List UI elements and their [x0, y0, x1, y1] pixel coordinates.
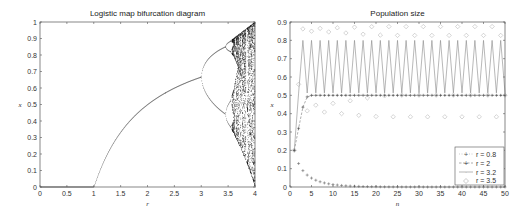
bifurcation-chart: Logistic map bifurcation diagram 00.511.… [17, 9, 257, 208]
x-tick-label: 3.5 [223, 190, 233, 197]
legend-item-r-3-2: · r = 3.2 [459, 169, 496, 176]
x-tick-label: 30 [415, 190, 423, 197]
bifurcation-y-ticks: 00.10.20.30.40.50.60.70.80.91 [27, 19, 255, 191]
y-tick-label: 0.5 [277, 92, 287, 99]
population-x-label: n [396, 200, 400, 208]
legend-label: r = 2 [476, 160, 490, 167]
x-tick-label: 10 [329, 190, 337, 197]
y-tick-label: 0.4 [277, 110, 287, 117]
population-chart: Population size 05101520253035404550 00.… [269, 9, 509, 208]
x-tick-label: 0.5 [62, 190, 72, 197]
x-tick-label: 20 [372, 190, 380, 197]
legend-label: r = 3.2 [476, 169, 496, 176]
x-tick-label: 35 [437, 190, 445, 197]
y-tick-label: 0.3 [277, 129, 287, 136]
legend-label: r = 3.5 [476, 177, 496, 184]
x-tick-label: 0 [288, 190, 292, 197]
legend-item-r-0-8: + r = 0.8 [459, 151, 496, 158]
x-tick-label: 40 [458, 190, 466, 197]
plus-marker-icon: + [464, 160, 468, 167]
x-tick-label: 1 [92, 190, 96, 197]
y-tick-label: 0.7 [27, 68, 37, 75]
figure: Logistic map bifurcation diagram 00.511.… [0, 0, 529, 212]
x-tick-label: 5 [310, 190, 314, 197]
population-title: Population size [370, 9, 425, 18]
y-tick-label: 0.2 [27, 151, 37, 158]
x-tick-label: 25 [394, 190, 402, 197]
y-tick-label: 0.2 [277, 147, 287, 154]
y-tick-label: 0.4 [27, 118, 37, 125]
bifurcation-x-label: r [146, 200, 149, 208]
y-tick-label: 1 [33, 19, 37, 26]
y-tick-label: 0.9 [27, 35, 37, 42]
bifurcation-points [40, 22, 256, 187]
x-tick-label: 15 [351, 190, 359, 197]
x-tick-label: 2.5 [170, 190, 180, 197]
population-y-label: x [269, 101, 274, 109]
x-tick-label: 4 [253, 190, 257, 197]
x-tick-label: 0 [38, 190, 42, 197]
y-tick-label: 0 [33, 184, 37, 191]
bifurcation-title: Logistic map bifurcation diagram [90, 9, 206, 18]
y-tick-label: 0.7 [277, 55, 287, 62]
y-tick-label: 0.8 [27, 52, 37, 59]
y-tick-label: 0.6 [27, 85, 37, 92]
x-tick-label: 50 [501, 190, 509, 197]
y-tick-label: 0.1 [27, 167, 37, 174]
plus-marker-icon: + [464, 151, 468, 158]
y-tick-label: 0.5 [27, 101, 37, 108]
legend: + r = 0.8 + r = 2 · r = 3.2 r = 3.5 [455, 147, 504, 185]
y-tick-label: 0.1 [277, 165, 287, 172]
x-tick-label: 1.5 [116, 190, 126, 197]
y-tick-label: 0.6 [277, 74, 287, 81]
y-tick-label: 0.8 [277, 37, 287, 44]
y-tick-label: 0.3 [27, 134, 37, 141]
bifurcation-scatter [40, 22, 256, 187]
legend-label: r = 0.8 [476, 151, 496, 158]
y-tick-label: 0.9 [277, 19, 287, 26]
bifurcation-x-ticks: 00.511.522.533.54 [38, 22, 257, 197]
y-tick-label: 0 [283, 184, 287, 191]
x-tick-label: 2 [146, 190, 150, 197]
bifurcation-y-label: x [17, 101, 22, 109]
series-r-2 [293, 94, 507, 152]
x-tick-label: 3 [199, 190, 203, 197]
x-tick-label: 45 [480, 190, 488, 197]
